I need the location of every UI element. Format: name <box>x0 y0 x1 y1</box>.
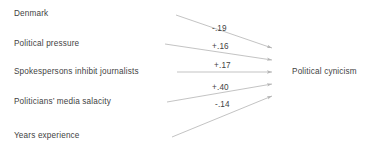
path-coefficient-denmark: -.19 <box>212 25 227 33</box>
outcome-label-political-cynicism: Political cynicism <box>292 68 357 76</box>
path-diagram: Denmark Political pressure Spokespersons… <box>0 0 389 147</box>
path-coefficient-media-salacity: +.40 <box>212 84 229 92</box>
predictor-label-spokespersons: Spokespersons inhibit journalists <box>14 68 139 76</box>
path-coefficient-spokespersons: +.17 <box>214 62 231 70</box>
predictor-label-political-pressure: Political pressure <box>14 40 79 48</box>
path-coefficient-years-experience: -.14 <box>215 101 230 109</box>
predictor-label-denmark: Denmark <box>14 10 48 18</box>
predictor-label-media-salacity: Politicians’ media salacity <box>14 98 111 106</box>
path-coefficient-political-pressure: +.16 <box>212 43 229 51</box>
predictor-label-years-experience: Years experience <box>14 132 80 140</box>
